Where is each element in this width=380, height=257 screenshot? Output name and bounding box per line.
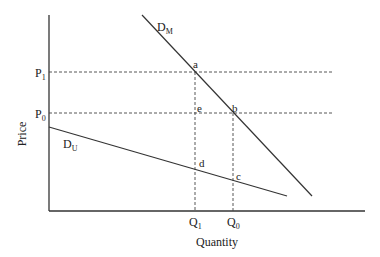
- point-e-label: e: [197, 102, 202, 114]
- point-b-label: b: [232, 102, 238, 114]
- q0-label: Q0: [227, 215, 240, 231]
- du-demand-curve: [49, 127, 287, 196]
- p0-label: P0: [35, 107, 46, 123]
- point-a-label: a: [193, 58, 198, 70]
- y-axis-title: Price: [15, 122, 29, 147]
- du-label: DU: [63, 137, 78, 153]
- p1-label: P1: [35, 66, 46, 82]
- dm-demand-curve: [142, 15, 312, 196]
- demand-diagram: DM DU P1 P0 Q1 Q0 a b e d c Price Quanti…: [0, 0, 380, 257]
- point-c-label: c: [236, 170, 241, 182]
- x-axis-title: Quantity: [196, 235, 238, 249]
- point-d-label: d: [199, 157, 205, 169]
- dm-label: DM: [157, 20, 173, 36]
- q1-label: Q1: [189, 215, 202, 231]
